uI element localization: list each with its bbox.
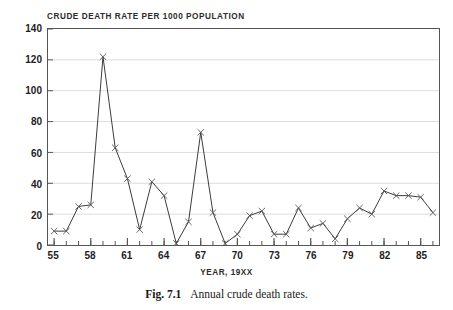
y-tick-label: 20 [31, 209, 42, 220]
data-point [430, 209, 436, 215]
chart-plot-svg [48, 29, 439, 245]
figure-container: CRUDE DEATH RATE PER 1000 POPULATION 020… [0, 0, 453, 310]
data-point [259, 208, 265, 214]
x-tick-label: 61 [121, 250, 132, 261]
x-tick-label: 73 [269, 250, 280, 261]
data-series-line [54, 57, 433, 244]
x-tick-label: 67 [195, 250, 206, 261]
data-point [149, 179, 155, 185]
plot-area [47, 28, 440, 246]
y-axis-tick-labels: 020406080100120140 [0, 28, 42, 246]
y-tick-label: 120 [25, 54, 42, 65]
x-axis-tick-labels: 5558616467707376798285 [47, 250, 440, 264]
y-ticks [48, 29, 53, 245]
data-point [381, 188, 387, 194]
y-tick-label: 0 [36, 241, 42, 252]
figure-caption-label: Fig. 7.1 [145, 288, 181, 300]
x-tick-label: 85 [416, 250, 427, 261]
x-major-ticks [54, 238, 421, 245]
x-minor-ticks [54, 241, 433, 245]
x-tick-label: 79 [342, 250, 353, 261]
x-tick-label: 70 [232, 250, 243, 261]
figure-caption-text: Annual crude death rates. [190, 288, 308, 300]
x-tick-label: 82 [379, 250, 390, 261]
x-axis-title: YEAR, 19XX [0, 268, 453, 277]
y-tick-label: 100 [25, 85, 42, 96]
y-tick-label: 140 [25, 23, 42, 34]
chart-title: CRUDE DEATH RATE PER 1000 POPULATION [47, 12, 245, 21]
y-tick-label: 60 [31, 147, 42, 158]
data-point [344, 216, 350, 222]
x-tick-label: 76 [305, 250, 316, 261]
data-point [356, 205, 362, 211]
data-point [234, 231, 240, 237]
data-point [136, 226, 142, 232]
data-point [124, 175, 130, 181]
x-tick-label: 58 [84, 250, 95, 261]
data-point-markers [51, 54, 436, 245]
figure-caption: Fig. 7.1Annual crude death rates. [0, 288, 453, 300]
data-point [308, 225, 314, 231]
data-point [161, 192, 167, 198]
y-tick-label: 40 [31, 178, 42, 189]
y-tick-label: 80 [31, 116, 42, 127]
x-tick-label: 55 [48, 250, 59, 261]
data-point [295, 205, 301, 211]
data-point [320, 220, 326, 226]
data-point [246, 213, 252, 219]
x-tick-label: 64 [158, 250, 169, 261]
